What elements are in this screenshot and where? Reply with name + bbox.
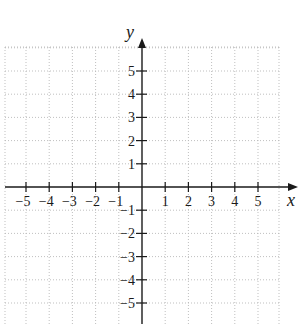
- x-tick-label: 3: [208, 194, 215, 209]
- y-tick-label: −2: [120, 226, 135, 241]
- y-axis-label: y: [124, 22, 134, 42]
- y-tick-label: 1: [128, 157, 135, 172]
- x-tick-label: −3: [62, 194, 77, 209]
- coordinate-plane: −5−4−3−2−11234554321−1−2−3−4−5 x y: [0, 0, 304, 324]
- y-tick-label: 2: [128, 134, 135, 149]
- x-tick-label: 1: [162, 194, 169, 209]
- x-tick-label: −2: [85, 194, 100, 209]
- x-tick-label: 4: [231, 194, 238, 209]
- y-tick-label: 5: [128, 64, 135, 79]
- y-axis-arrow-icon: [138, 38, 146, 48]
- x-tick-label: −4: [39, 194, 54, 209]
- y-tick-label: −5: [120, 296, 135, 311]
- y-tick-label: 3: [128, 110, 135, 125]
- y-tick-label: −1: [120, 203, 135, 218]
- x-axis-label: x: [286, 190, 295, 210]
- y-tick-label: −3: [120, 250, 135, 265]
- y-tick-label: −4: [120, 273, 135, 288]
- x-tick-label: −5: [16, 194, 31, 209]
- x-tick-label: 5: [255, 194, 262, 209]
- x-tick-label: 2: [185, 194, 192, 209]
- y-tick-label: 4: [128, 87, 135, 102]
